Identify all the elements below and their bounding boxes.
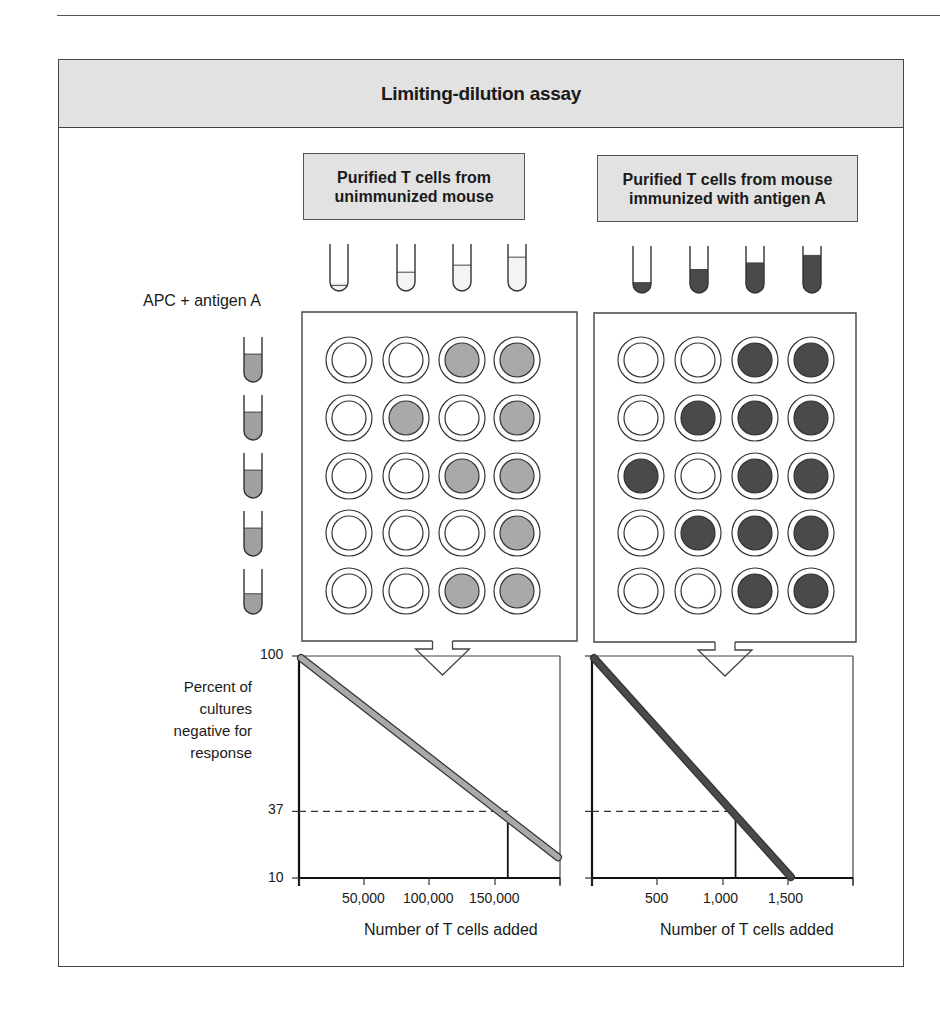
culture-plates	[302, 312, 856, 676]
well-positive	[675, 395, 721, 441]
well-positive	[383, 395, 429, 441]
well-negative	[618, 568, 664, 614]
y-axis-label-line: negative for	[150, 720, 252, 742]
x-tick-left-2: 100,000	[403, 890, 454, 906]
well-positive	[788, 453, 834, 499]
well-negative	[383, 568, 429, 614]
well-negative	[618, 395, 664, 441]
x-axis-title-right: Number of T cells added	[660, 921, 834, 939]
unimmunized-tube-icon	[453, 244, 471, 291]
well-negative	[383, 337, 429, 383]
well-positive	[732, 395, 778, 441]
well-negative	[675, 337, 721, 383]
charts	[292, 656, 853, 886]
y-tick-37: 37	[268, 801, 284, 817]
immunized-tube-icon	[690, 246, 708, 293]
well-positive	[732, 453, 778, 499]
well-positive	[494, 395, 540, 441]
well-positive	[788, 337, 834, 383]
y-tick-100: 100	[260, 646, 283, 662]
well-positive	[732, 337, 778, 383]
well-positive	[732, 510, 778, 556]
diagram-canvas	[0, 0, 940, 1014]
well-negative	[326, 568, 372, 614]
well-positive	[788, 510, 834, 556]
y-axis-label: Percent of cultures negative for respons…	[150, 676, 252, 764]
apc-tube-icon	[244, 395, 262, 440]
well-positive	[788, 568, 834, 614]
y-axis-label-line: Percent of	[150, 676, 252, 698]
well-positive	[494, 453, 540, 499]
well-negative	[383, 453, 429, 499]
well-negative	[326, 395, 372, 441]
apc-tubes	[244, 337, 262, 614]
apc-tube-icon	[244, 337, 262, 382]
well-positive	[494, 337, 540, 383]
well-negative	[326, 510, 372, 556]
well-negative	[383, 510, 429, 556]
well-negative	[439, 510, 485, 556]
x-tick-right-1: 500	[645, 890, 668, 906]
immunized-tube-icon	[746, 246, 764, 293]
y-axis-label-line: cultures	[150, 698, 252, 720]
x-tick-left-3: 150,000	[469, 890, 520, 906]
x-tick-right-3: 1,500	[768, 890, 803, 906]
right-chart	[585, 656, 853, 886]
well-positive	[439, 453, 485, 499]
well-positive	[494, 568, 540, 614]
well-negative	[618, 337, 664, 383]
well-positive	[732, 568, 778, 614]
well-negative	[675, 453, 721, 499]
unimmunized-tube-icon	[330, 244, 348, 291]
apc-tube-icon	[244, 511, 262, 556]
well-negative	[326, 453, 372, 499]
t-cell-tubes	[330, 244, 821, 293]
well-positive	[618, 453, 664, 499]
x-tick-right-2: 1,000	[703, 890, 738, 906]
well-positive	[439, 337, 485, 383]
x-axis-title-left: Number of T cells added	[364, 921, 538, 939]
immunized-tube-icon	[803, 246, 821, 293]
left-plate	[302, 312, 577, 675]
apc-tube-icon	[244, 453, 262, 498]
well-positive	[788, 395, 834, 441]
x-tick-left-1: 50,000	[342, 890, 385, 906]
left-chart	[292, 656, 560, 886]
well-positive	[675, 510, 721, 556]
well-negative	[618, 510, 664, 556]
right-plate	[594, 313, 856, 676]
well-positive	[439, 568, 485, 614]
well-negative	[439, 395, 485, 441]
down-arrow-icon	[416, 641, 470, 675]
well-positive	[494, 510, 540, 556]
y-tick-10: 10	[268, 869, 284, 885]
unimmunized-tube-icon	[508, 244, 526, 291]
well-negative	[326, 337, 372, 383]
unimmunized-tube-icon	[397, 244, 415, 291]
well-negative	[675, 568, 721, 614]
apc-tube-icon	[244, 569, 262, 614]
down-arrow-icon	[698, 642, 752, 676]
immunized-tube-icon	[633, 246, 651, 293]
y-axis-label-line: response	[150, 742, 252, 764]
